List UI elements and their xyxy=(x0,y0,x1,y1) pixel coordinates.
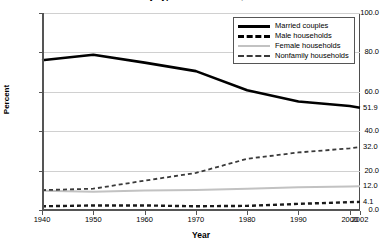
y-tick-mark xyxy=(39,131,42,132)
y-tick-mark xyxy=(39,13,42,14)
y-tick-label: 60.0 xyxy=(341,88,379,96)
x-tick-label: 2002 xyxy=(340,215,380,224)
x-tick-label: 1940 xyxy=(22,215,62,224)
legend-label-male-households: Male households xyxy=(275,31,332,40)
series-end-label: 12.0 xyxy=(363,182,378,190)
legend-item-nonfamily-households[interactable]: Nonfamily households xyxy=(237,50,351,60)
y-tick-label: 20.0 xyxy=(341,167,379,175)
series-end-label: 32.0 xyxy=(363,143,378,151)
x-tick-label: 1980 xyxy=(227,215,267,224)
x-tick-mark xyxy=(93,211,94,215)
x-tick-mark xyxy=(42,211,43,215)
legend-swatch-male-households-icon xyxy=(237,31,271,40)
chart-title: Households by Type: Selected Years, 1940… xyxy=(40,0,340,1)
legend-item-female-households[interactable]: Female households xyxy=(237,40,351,50)
legend-swatch-female-households-icon xyxy=(237,41,271,50)
x-tick-label: 1950 xyxy=(73,215,113,224)
x-tick-mark xyxy=(247,211,248,215)
x-axis-title: Year xyxy=(42,230,360,240)
x-tick-label: 1960 xyxy=(125,215,165,224)
legend-label-female-households: Female households xyxy=(275,41,340,50)
x-tick-mark xyxy=(298,211,299,215)
x-tick-mark xyxy=(196,211,197,215)
legend-item-married-couples[interactable]: Married couples xyxy=(237,20,351,30)
y-axis-line xyxy=(42,13,44,211)
x-tick-mark xyxy=(360,211,361,215)
y-tick-mark xyxy=(39,52,42,53)
x-axis-line xyxy=(42,209,360,211)
legend-label-nonfamily-households: Nonfamily households xyxy=(275,51,349,60)
chart-legend: Married couples Male households Female h… xyxy=(233,17,355,64)
y-tick-label: 100.0 xyxy=(341,9,379,17)
legend-label-married-couples: Married couples xyxy=(275,21,328,30)
y-tick-label: 40.0 xyxy=(341,127,379,135)
x-tick-label: 1990 xyxy=(278,215,318,224)
series-line xyxy=(42,186,360,191)
legend-swatch-nonfamily-households-icon xyxy=(237,51,271,60)
y-tick-mark xyxy=(39,171,42,172)
series-end-label: 4.1 xyxy=(363,198,373,206)
x-tick-mark xyxy=(145,211,146,215)
series-line xyxy=(42,202,360,206)
x-tick-label: 1970 xyxy=(176,215,216,224)
series-end-label: 51.9 xyxy=(363,104,378,112)
y-tick-mark xyxy=(39,92,42,93)
y-axis-title: Percent xyxy=(2,85,11,114)
legend-item-male-households[interactable]: Male households xyxy=(237,30,351,40)
series-line xyxy=(42,147,360,190)
legend-swatch-married-couples-icon xyxy=(237,21,271,30)
